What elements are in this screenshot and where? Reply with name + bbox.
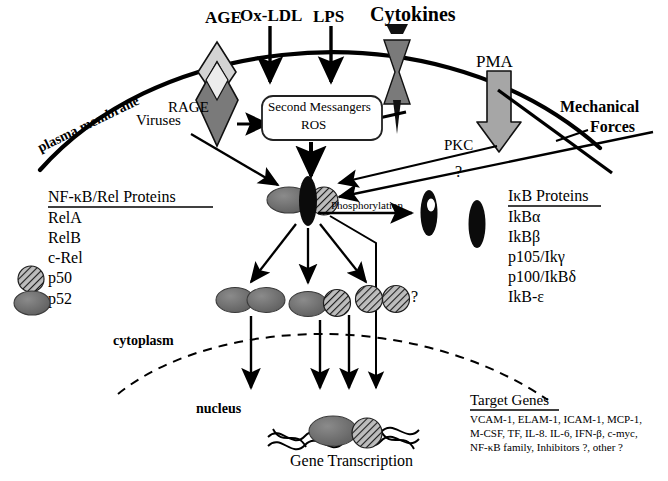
target-genes-line-3: NF-κB family, Inhibitors ?, other ? [470, 441, 642, 453]
ikb-panel-item-p100: p100/IkBδ [508, 268, 589, 286]
ikb-panel-item-p105: p105/Ikγ [508, 248, 589, 266]
ikb-panel-item-alpha: IkBα [508, 208, 589, 226]
ikb-panel-item-epsilon: IkB-ε [508, 288, 589, 306]
target-genes-panel: Target Genes VCAM-1, ELAM-1, ICAM-1, MCP… [470, 392, 642, 453]
ikb-panel-item-beta: IkBβ [508, 228, 589, 246]
ikb-panel-title: IκB Proteins [508, 187, 589, 205]
pathway-diagram: AGE Ox-LDL LPS Cytokines PMA Mechanical … [0, 0, 668, 481]
target-genes-line-1: VCAM-1, ELAM-1, ICAM-1, MCP-1, [470, 413, 642, 425]
target-genes-line-2: M-CSF, TF, IL-8. IL-6, IFN-β, c-myc, [470, 427, 642, 439]
p50-legend-icon [18, 266, 44, 292]
p52-legend-icon [14, 291, 50, 315]
ikb-proteins-panel: IκB Proteins IkBα IkBβ p105/Ikγ p100/IkB… [508, 187, 589, 306]
target-genes-title: Target Genes [470, 392, 642, 409]
